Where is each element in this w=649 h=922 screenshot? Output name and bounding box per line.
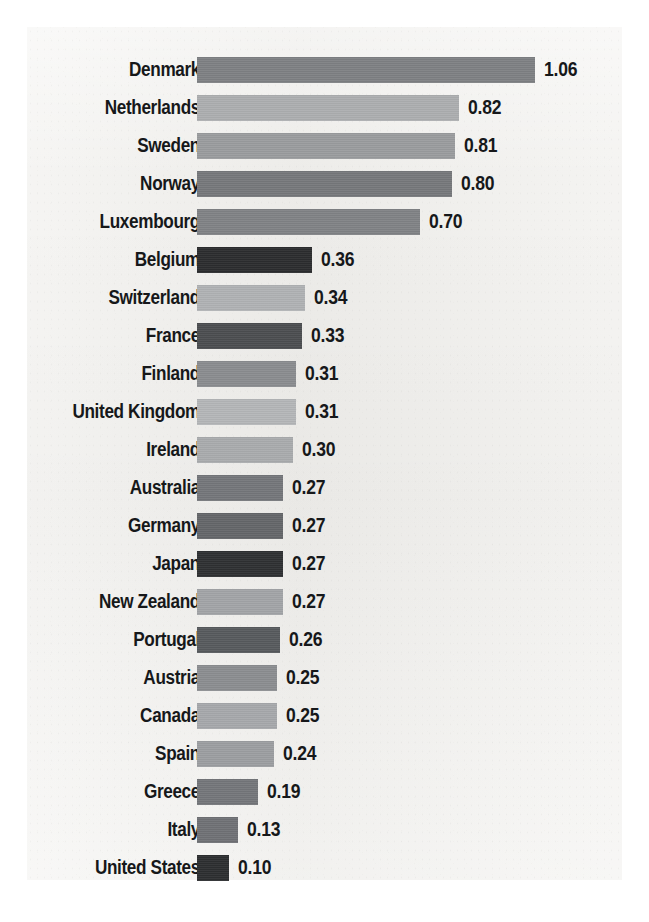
bar-category-label: United Kingdom [24,398,200,425]
bar-category-label: Austria [24,664,200,691]
bar-value-label: 1.06 [544,56,577,83]
bar-category-label: France [24,322,200,349]
bar-value-label: 0.30 [302,436,335,463]
bar-value-label: 0.24 [283,740,316,767]
bar-row: United Kingdom0.31 [27,399,622,425]
bar-value-label: 0.80 [461,170,494,197]
bar-track: 0.33 [197,323,622,349]
bar-category-label: Canada [24,702,200,729]
bar-track: 0.25 [197,665,622,691]
bar-track: 0.27 [197,589,622,615]
bar-row: Switzerland0.34 [27,285,622,311]
bar-value-label: 0.10 [238,854,271,881]
bar-track: 0.10 [197,855,622,881]
bar-value-label: 0.13 [247,816,280,843]
bar-category-label: Ireland [24,436,200,463]
bar-category-label: Norway [24,170,200,197]
bar-row: France0.33 [27,323,622,349]
bar-row: Denmark1.06 [27,57,622,83]
bar-track: 0.82 [197,95,622,121]
bar-track: 0.27 [197,513,622,539]
bar-track: 0.80 [197,171,622,197]
bar-row: Belgium0.36 [27,247,622,273]
bar [197,171,452,197]
bar-row: Germany0.27 [27,513,622,539]
bar-track: 0.26 [197,627,622,653]
bar-track: 0.24 [197,741,622,767]
bar-row: Norway0.80 [27,171,622,197]
bar-category-label: United States [24,854,200,881]
bar-row: Australia0.27 [27,475,622,501]
bar [197,133,455,159]
bar [197,361,296,387]
bar-category-label: Australia [24,474,200,501]
bar [197,589,283,615]
bar [197,247,312,273]
bar-row: Canada0.25 [27,703,622,729]
bar-row: United States0.10 [27,855,622,881]
bar-track: 0.36 [197,247,622,273]
bar-row: Italy0.13 [27,817,622,843]
bar-value-label: 0.33 [311,322,344,349]
bar [197,855,229,881]
bar-row: Portugal0.26 [27,627,622,653]
bar-value-label: 0.27 [292,512,325,539]
bar-value-label: 0.31 [305,360,338,387]
bar [197,475,283,501]
bar-track: 0.27 [197,475,622,501]
bar [197,627,280,653]
bar [197,209,420,235]
bar-value-label: 0.27 [292,588,325,615]
bar-category-label: Greece [24,778,200,805]
bar-track: 0.25 [197,703,622,729]
bar-row: Japan0.27 [27,551,622,577]
bar-value-label: 0.27 [292,474,325,501]
bar [197,513,283,539]
bar [197,551,283,577]
bar-category-label: Belgium [24,246,200,273]
bar-category-label: Netherlands [24,94,200,121]
bar-value-label: 0.31 [305,398,338,425]
bar-category-label: New Zealand [24,588,200,615]
bar-category-label: Switzerland [24,284,200,311]
bar [197,57,535,83]
bar-value-label: 0.34 [314,284,347,311]
bar-value-label: 0.26 [289,626,322,653]
bar [197,437,293,463]
bar-track: 0.30 [197,437,622,463]
bar-row: Spain0.24 [27,741,622,767]
bar-row: Ireland0.30 [27,437,622,463]
bar-value-label: 0.70 [429,208,462,235]
bar [197,665,277,691]
bar-value-label: 0.25 [286,702,319,729]
bar-value-label: 0.82 [468,94,501,121]
bar-category-label: Italy [24,816,200,843]
bar-category-label: Portugal [24,626,200,653]
bar-value-label: 0.27 [292,550,325,577]
bar-category-label: Denmark [24,56,200,83]
bar [197,399,296,425]
bar-row: Austria0.25 [27,665,622,691]
bar-track: 1.06 [197,57,622,83]
bar-value-label: 0.19 [267,778,300,805]
chart-panel: Denmark1.06Netherlands0.82Sweden0.81Norw… [27,27,622,880]
bar-category-label: Spain [24,740,200,767]
bar-chart: Denmark1.06Netherlands0.82Sweden0.81Norw… [27,27,622,880]
bar-track: 0.31 [197,399,622,425]
bar-row: Sweden0.81 [27,133,622,159]
bar-row: Luxembourg0.70 [27,209,622,235]
bar [197,703,277,729]
bar-value-label: 0.81 [464,132,497,159]
bar-row: New Zealand0.27 [27,589,622,615]
bar [197,817,238,843]
bar [197,779,258,805]
bar-track: 0.31 [197,361,622,387]
bar-row: Netherlands0.82 [27,95,622,121]
bar-category-label: Japan [24,550,200,577]
bar-track: 0.81 [197,133,622,159]
bar-track: 0.27 [197,551,622,577]
bar-track: 0.13 [197,817,622,843]
bar-track: 0.34 [197,285,622,311]
bar-track: 0.19 [197,779,622,805]
bar [197,741,274,767]
